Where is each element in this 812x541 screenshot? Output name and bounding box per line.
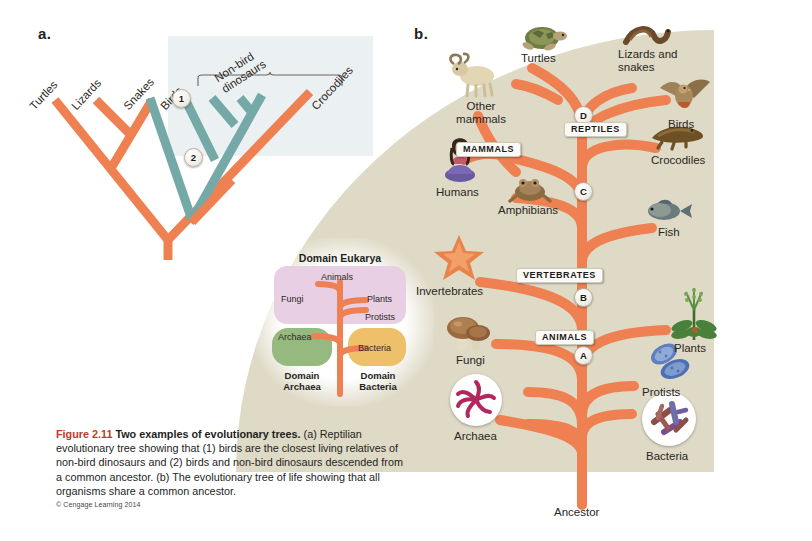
panel-b-tip-crocodiles: Crocodiles: [651, 154, 705, 166]
inset-label-protists: Protists: [365, 312, 395, 322]
inset-domain-archaea-line2: Archaea: [270, 381, 334, 392]
clade-label-mammals: MAMMALS: [463, 144, 514, 154]
mushroom-icon: [444, 306, 500, 352]
inset-label-animals: Animals: [321, 272, 353, 282]
panel-b-node-a: A: [574, 346, 593, 365]
inset-domain-bacteria-line1: Domain: [346, 370, 410, 381]
sheep-icon: [446, 50, 504, 98]
inset-domain-archaea: Domain Archaea: [270, 370, 334, 392]
clade-label-vertebrates: VERTEBRATES: [523, 270, 596, 280]
domain-inset: Domain Eukarya Animals Fungi Plants Prot…: [266, 252, 414, 400]
bird-icon: [656, 72, 714, 116]
clade-badge-vertebrates: VERTEBRATES: [516, 268, 603, 283]
panel-b-tip-birds: Birds: [668, 118, 694, 130]
panel-b-tip-other-mammals: Other mammals: [450, 100, 512, 126]
clade-label-reptiles: REPTILES: [571, 124, 620, 134]
panel-b-tip-humans: Humans: [436, 186, 479, 198]
panel-b-tip-plants: Plants: [674, 342, 706, 354]
archaea-badge: [450, 374, 502, 426]
panel-b-tip-archaea: Archaea: [454, 430, 497, 442]
panel-b-tip-bacteria: Bacteria: [646, 450, 688, 462]
human-icon: [440, 132, 480, 184]
inset-label-plants: Plants: [367, 294, 392, 304]
frog-icon: [506, 172, 554, 204]
plant-icon: [668, 286, 720, 342]
turtle-icon: [516, 20, 568, 54]
panel-b-root-label: Ancestor: [554, 506, 599, 518]
starfish-icon: [432, 232, 486, 282]
inset-domain-archaea-line1: Domain: [270, 370, 334, 381]
panel-b-tip-amphibians: Amphibians: [498, 204, 558, 216]
inset-label-archaea: Archaea: [278, 332, 312, 342]
caption-title: Two examples of evolutionary trees.: [115, 428, 300, 440]
panel-b-tip-invertebrates: Invertebrates: [416, 285, 483, 297]
clade-badge-reptiles: REPTILES: [564, 122, 627, 137]
fish-icon: [642, 196, 692, 226]
panel-b-tip-lizards-snakes: Lizards and snakes: [618, 48, 688, 74]
panel-a-node-1: 1: [172, 89, 191, 108]
panel-b-tip-fungi: Fungi: [456, 354, 485, 366]
inset-domain-bacteria-line2: Bacteria: [346, 381, 410, 392]
snake-icon: [620, 16, 674, 50]
caption-text: Figure 2.11 Two examples of evolutionary…: [56, 427, 406, 498]
clade-badge-animals: ANIMALS: [535, 330, 594, 345]
panel-b-node-b: B: [574, 288, 593, 307]
panel-b-tip-protists: Protists: [642, 386, 680, 398]
panel-b-tip-turtles: Turtles: [521, 52, 556, 64]
bacteria-badge: [642, 392, 696, 446]
caption-credit: © Cengage Learning 2014: [56, 501, 406, 508]
caption-figure-number: Figure 2.11: [56, 428, 112, 440]
panel-a-node-2: 2: [184, 148, 203, 167]
figure-caption: Figure 2.11 Two examples of evolutionary…: [56, 427, 406, 508]
panel-b-node-c: C: [574, 182, 593, 201]
clade-badge-mammals: MAMMALS: [456, 142, 521, 157]
inset-label-bacteria: Bacteria: [358, 343, 391, 353]
panel-b-tip-fish: Fish: [658, 226, 680, 238]
inset-domain-bacteria: Domain Bacteria: [346, 370, 410, 392]
inset-label-fungi: Fungi: [281, 294, 304, 304]
figure-canvas: a.: [0, 0, 812, 541]
clade-label-animals: ANIMALS: [542, 332, 587, 342]
